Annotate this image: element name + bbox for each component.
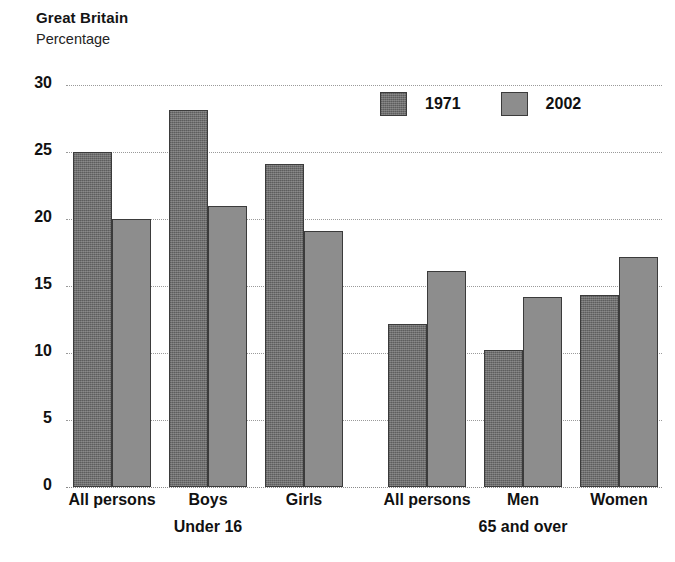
y-axis-tick-label-20: 20 <box>0 208 52 226</box>
bar-1971-all-persons <box>388 324 427 487</box>
legend-swatch-1971 <box>380 92 407 116</box>
gridline-0 <box>66 487 662 488</box>
y-axis-tick-label-10: 10 <box>0 342 52 360</box>
y-axis-tick-label-25: 25 <box>0 141 52 159</box>
plot-area <box>66 85 662 487</box>
legend-label-2002: 2002 <box>546 95 582 113</box>
y-axis-tick-label-15: 15 <box>0 275 52 293</box>
chart-legend: 19712002 <box>380 92 581 116</box>
x-axis-label-girls: Girls <box>235 491 373 509</box>
bar-2002-girls <box>304 231 343 487</box>
bar-2002-all-persons <box>112 219 151 487</box>
bar-2002-all-persons <box>427 271 466 487</box>
gridline-5 <box>66 420 662 421</box>
gridline-10 <box>66 353 662 354</box>
bar-2002-men <box>523 297 562 487</box>
bar-1971-boys <box>169 110 208 487</box>
legend-item-1971[interactable]: 1971 <box>380 92 461 116</box>
bar-2002-women <box>619 257 658 487</box>
x-axis-group-label-65-and-over: 65 and over <box>388 518 658 536</box>
x-axis-label-women: Women <box>550 491 675 509</box>
bar-2002-boys <box>208 206 247 487</box>
gridline-30 <box>66 85 662 86</box>
gridline-20 <box>66 219 662 220</box>
legend-label-1971: 1971 <box>425 95 461 113</box>
legend-item-2002[interactable]: 2002 <box>501 92 582 116</box>
gridline-25 <box>66 152 662 153</box>
legend-swatch-2002 <box>501 92 528 116</box>
y-axis-tick-label-30: 30 <box>0 74 52 92</box>
bar-1971-women <box>580 295 619 487</box>
bar-1971-girls <box>265 164 304 487</box>
x-axis-group-label-under-16: Under 16 <box>73 518 343 536</box>
gridline-15 <box>66 286 662 287</box>
y-axis-tick-label-5: 5 <box>0 409 52 427</box>
bar-chart: 302520151050 All personsBoysGirlsAll per… <box>0 0 675 562</box>
bar-1971-all-persons <box>73 152 112 487</box>
bar-1971-men <box>484 350 523 487</box>
